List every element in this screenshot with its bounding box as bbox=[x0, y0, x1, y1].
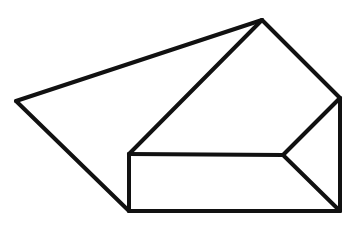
edge-DE bbox=[129, 154, 283, 155]
edge-CE bbox=[283, 98, 340, 155]
diagram-canvas bbox=[0, 0, 353, 231]
edge-BC bbox=[262, 20, 340, 98]
geometric-figure bbox=[0, 0, 353, 231]
edge-AF bbox=[16, 101, 129, 211]
edge-EG bbox=[283, 155, 340, 211]
edge-AB bbox=[16, 20, 262, 101]
